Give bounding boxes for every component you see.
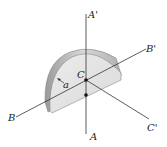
label-c-prime: C' bbox=[147, 122, 157, 133]
label-c: C bbox=[77, 69, 85, 80]
label-radius-a: a bbox=[63, 79, 69, 90]
centroid-point-c bbox=[84, 78, 88, 82]
label-a-prime: A' bbox=[87, 9, 98, 20]
semicircular-plate-diagram: A' A B' B C' C a bbox=[0, 0, 167, 147]
center-point bbox=[84, 93, 88, 97]
label-b-prime: B' bbox=[145, 43, 156, 54]
axis-c-c-prime bbox=[86, 80, 149, 119]
label-b: B bbox=[7, 112, 15, 123]
diagram-canvas: A' A B' B C' C a bbox=[0, 0, 167, 147]
label-a: A bbox=[89, 131, 97, 142]
